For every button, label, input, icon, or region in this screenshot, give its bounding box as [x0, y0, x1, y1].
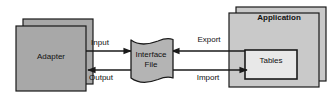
application-label: Application [234, 13, 324, 22]
interface-file-label: InterfaceFile [129, 50, 173, 70]
edge-label-output: Output [76, 73, 126, 82]
edge-label-input: Input [78, 38, 122, 47]
edge-label-import: Import [184, 73, 232, 82]
adapter-label: Adapter [16, 52, 86, 61]
edge-label-export: Export [185, 35, 233, 44]
interface-file-label-line2: File [145, 60, 158, 69]
tables-label: Tables [249, 56, 293, 65]
interface-file-label-line1: Interface [135, 50, 166, 59]
diagram-canvas: Adapter InterfaceFile Application Tables… [0, 0, 333, 107]
